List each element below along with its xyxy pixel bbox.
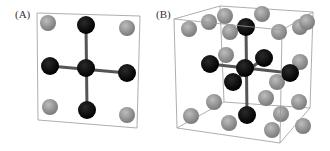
gray-atom [295, 118, 311, 134]
panel-b-unit-cell [174, 6, 315, 143]
gray-atom [217, 8, 233, 24]
black-atom [201, 55, 219, 73]
black-atom [41, 57, 59, 75]
gray-atom [183, 108, 199, 124]
gray-atom [258, 90, 274, 106]
black-atom [78, 101, 96, 119]
black-atom [238, 106, 256, 124]
black-atom [77, 16, 95, 34]
crystal-structure-figure [0, 0, 330, 151]
gray-atom [119, 107, 135, 123]
gray-atom [206, 94, 222, 110]
gray-atom [119, 20, 135, 36]
gray-atom [264, 122, 280, 138]
gray-atom [218, 47, 234, 63]
gray-atom [40, 15, 56, 31]
panel-a-unit-cell [37, 13, 140, 128]
black-atom [77, 59, 95, 77]
gray-atom [299, 14, 315, 30]
black-atom [118, 64, 136, 82]
gray-atom [221, 115, 237, 131]
gray-atom [254, 6, 270, 22]
black-atom [281, 64, 299, 82]
gray-atom [271, 24, 287, 40]
gray-atom [222, 24, 238, 40]
gray-atom [291, 94, 307, 110]
black-atom [236, 59, 254, 77]
black-atom [255, 49, 273, 67]
black-atom [224, 73, 242, 91]
gray-atom [181, 21, 197, 37]
gray-atom [42, 99, 58, 115]
